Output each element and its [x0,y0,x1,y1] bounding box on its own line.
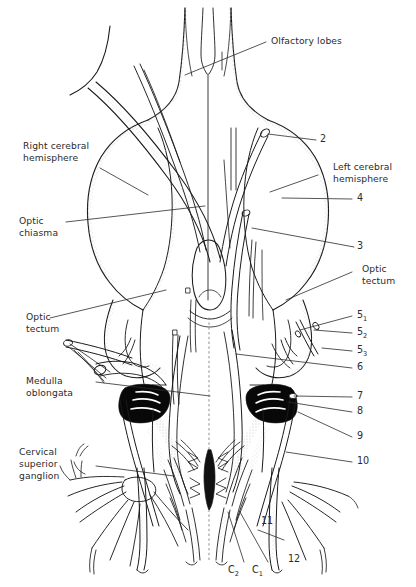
label-right-cerebral-hemisphere-line1: Right cerebral [23,140,89,151]
label-cervical-superior-ganglion-line3: ganglion [19,470,59,481]
figure-page: Olfactory lobes Right cerebral hemispher… [0,0,416,587]
label-left-cerebral-hemisphere-line2: hemisphere [333,173,388,184]
label-left-cerebral-hemisphere-line1: Left cerebral [333,161,392,172]
cranial-nerve-bundle-left [134,64,206,252]
label-number-3: 3 [357,241,363,251]
label-optic-tectum-left-line2: tectum [362,275,395,286]
label-number-6: 6 [357,362,363,372]
label-medulla-oblongata-line2: oblongata [26,387,73,398]
label-number-12: 12 [288,554,300,564]
label-optic-tectum-right-line2: tectum [26,323,59,334]
nerve-stubs-center [172,300,196,404]
label-optic-chiasma-line2: chiasma [19,227,58,238]
label-medulla-oblongata-line1: Medulla [26,375,63,386]
label-number-9: 9 [357,431,363,441]
label-number-5-3: 53 [357,345,367,357]
label-number-4: 4 [357,193,363,203]
label-olfactory-lobes: Olfactory lobes [271,35,342,46]
label-optic-tectum-left-line1: Optic [362,263,387,274]
label-cervical-superior-ganglion-line1: Cervical [19,446,57,457]
label-right-cerebral-hemisphere-line2: hemisphere [23,152,78,163]
fourth-ventricle [204,450,215,510]
label-number-2: 2 [320,134,326,144]
label-optic-tectum-right-line1: Optic [26,311,51,322]
label-number-7: 7 [357,391,363,401]
pineal-body [188,240,232,327]
label-number-5-1: 51 [357,310,367,322]
brain-anatomy-illustration [0,0,416,587]
right-cerebral-hemisphere-outline [70,26,148,310]
label-number-5-2: 52 [357,327,367,339]
label-number-10: 10 [357,456,369,466]
left-cerebral-hemisphere-outline [268,120,328,310]
label-optic-chiasma-line1: Optic [19,215,44,226]
label-c2: C2 [228,565,239,577]
label-number-8: 8 [357,406,363,416]
trigeminal-nerve-roots-mirror [119,338,135,364]
trigeminal-nerve-roots [272,320,320,368]
label-number-11: 11 [261,516,273,526]
label-cervical-superior-ganglion-line2: superior [19,458,58,469]
label-c1: C1 [252,565,263,577]
